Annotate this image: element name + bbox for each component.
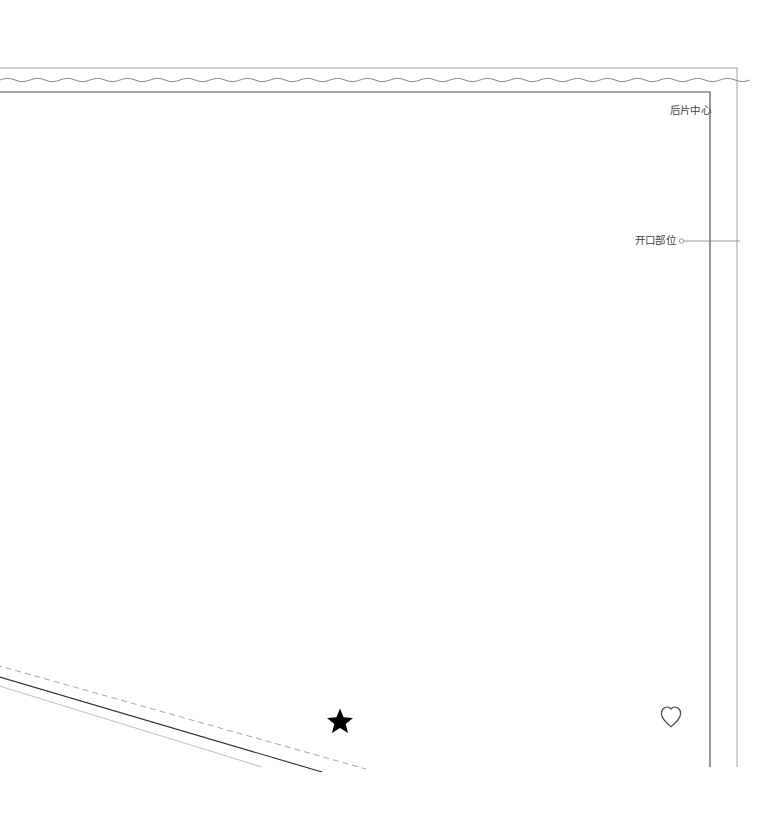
wavy-gather-line [0, 78, 750, 81]
light-guide-line [0, 685, 262, 767]
opening-marker-dot [679, 239, 683, 243]
label-opening-position: 开口部位 [635, 234, 676, 247]
pattern-drawing-canvas: 后片中心 开口部位 [0, 0, 773, 836]
dashed-seam-line [0, 665, 366, 769]
heart-icon [661, 707, 680, 727]
pattern-vector-layer [0, 0, 773, 836]
outer-frame-outline [0, 68, 737, 767]
solid-hem-line [0, 676, 322, 772]
star-icon [327, 709, 353, 734]
inner-panel-outline [0, 92, 710, 767]
label-back-center: 后片中心 [670, 104, 711, 117]
